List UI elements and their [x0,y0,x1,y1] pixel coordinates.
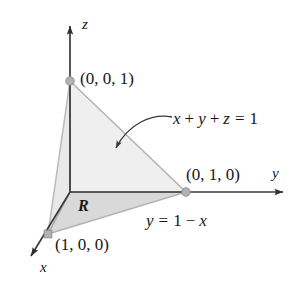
vertex-dot-x-intercept [44,230,52,238]
line-eq-term-x: x [199,211,207,230]
vertex-label-x-intercept: (1, 0, 0) [55,236,109,253]
plane-eq-term-x: x [173,109,181,128]
vertex-label-y-intercept: (0, 1, 0) [186,166,240,183]
vertex-label-z-intercept: (0, 0, 1) [80,70,134,87]
figure-container: z y x (0, 0, 1) (0, 1, 0) (1, 0, 0) x+y+… [0,0,304,283]
diagram-canvas [0,0,304,283]
plane-eq-term-z: z [223,109,230,128]
line-eq-term-y: y [146,211,154,230]
plane-eq-plus-1: + [185,109,195,128]
plane-eq-equals: = [235,109,245,128]
line-eq-one: 1 [173,211,182,230]
plane-eq-plus-2: + [210,109,220,128]
region-label-R: R [78,198,89,214]
vertex-dot-y-intercept [182,188,190,196]
plane-eq-term-y: y [198,109,206,128]
y-axis-label: y [272,166,279,181]
line-equation-label: y=1−x [146,212,207,229]
line-eq-minus: − [186,211,196,230]
plane-equation-label: x+y+z=1 [173,110,258,127]
plane-eq-rhs: 1 [250,109,259,128]
line-eq-equals: = [159,211,169,230]
z-axis-label: z [82,17,88,32]
x-axis-label: x [40,260,47,275]
vertex-dot-z-intercept [66,77,74,85]
